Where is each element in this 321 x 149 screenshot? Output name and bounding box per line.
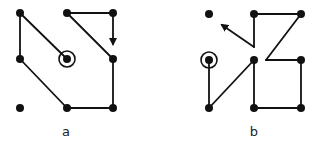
grid-dot xyxy=(250,10,258,18)
path-segment xyxy=(20,59,67,108)
grid-dot xyxy=(205,10,213,18)
diagram-a xyxy=(16,9,117,112)
grid-dot xyxy=(16,55,24,63)
grid-dot xyxy=(297,56,305,64)
grid-dot xyxy=(297,10,305,18)
grid-dot xyxy=(109,104,117,112)
grid-dot xyxy=(63,104,71,112)
grid-dot xyxy=(250,104,258,112)
path-segment xyxy=(266,14,301,60)
grid-dot xyxy=(16,9,24,17)
diagram-b xyxy=(201,10,305,112)
diagram-canvas xyxy=(0,0,321,149)
diagram-b-label: b xyxy=(250,124,258,139)
grid-dot xyxy=(109,55,117,63)
grid-dot xyxy=(205,104,213,112)
grid-dot xyxy=(250,56,258,64)
grid-dot xyxy=(16,104,24,112)
grid-dot xyxy=(63,55,71,63)
grid-dot xyxy=(63,9,71,17)
grid-dot xyxy=(205,56,213,64)
diagram-a-label: a xyxy=(62,124,70,139)
path-segment xyxy=(67,13,113,59)
arrow-icon xyxy=(222,25,254,47)
path-segment xyxy=(20,13,67,59)
grid-dot xyxy=(297,104,305,112)
path-segment xyxy=(209,60,254,108)
grid-dot xyxy=(109,9,117,17)
